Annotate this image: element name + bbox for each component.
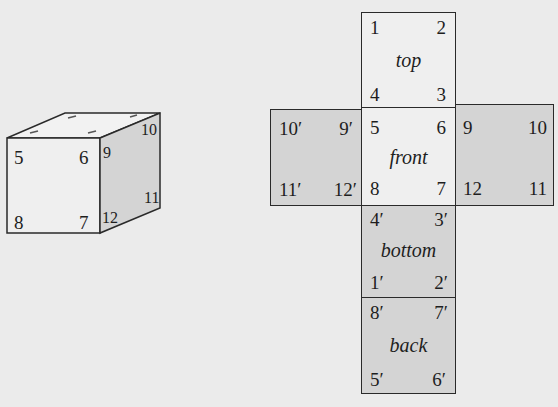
left-num-bl: 11′ xyxy=(279,180,301,199)
net-face-bottom: 4′ 3′ bottom 1′ 2′ xyxy=(361,205,456,298)
bottom-num-br: 2′ xyxy=(434,273,448,292)
back-num-br: 6′ xyxy=(432,370,446,389)
net-face-back: 8′ 7′ back 5′ 6′ xyxy=(361,297,456,394)
top-num-bl: 4 xyxy=(370,85,380,104)
net-face-right: 9 10 12 11 xyxy=(455,104,554,206)
cube-right-num-bl: 12 xyxy=(102,210,118,226)
left-num-br: 12′ xyxy=(334,180,357,199)
top-num-tl: 1 xyxy=(370,18,380,37)
front-num-tr: 6 xyxy=(437,118,447,137)
right-num-tl: 9 xyxy=(463,118,473,137)
top-num-br: 3 xyxy=(437,85,447,104)
front-num-bl: 8 xyxy=(370,179,380,198)
front-num-tl: 5 xyxy=(370,118,380,137)
bottom-num-tr: 3′ xyxy=(434,210,448,229)
right-num-br: 11 xyxy=(529,179,547,198)
front-label: front xyxy=(362,147,455,167)
cube-front-num-tr: 6 xyxy=(79,148,89,167)
top-label: top xyxy=(362,50,455,70)
back-num-tr: 7′ xyxy=(434,303,448,322)
cube-front-num-bl: 8 xyxy=(14,213,24,232)
bottom-label: bottom xyxy=(362,240,455,260)
top-num-tr: 2 xyxy=(437,18,447,37)
right-num-tr: 10 xyxy=(528,118,547,137)
bottom-num-tl: 4′ xyxy=(370,210,384,229)
cube-right-num-tr: 10 xyxy=(141,122,157,138)
bottom-num-bl: 1′ xyxy=(370,273,384,292)
left-num-tl: 10′ xyxy=(279,119,302,138)
net-face-left: 10′ 9′ 11′ 12′ xyxy=(270,109,362,206)
front-num-br: 7 xyxy=(437,179,447,198)
cube-front-num-tl: 5 xyxy=(14,148,24,167)
cube-front-num-br: 7 xyxy=(79,213,89,232)
net-face-front: 5 6 front 8 7 xyxy=(361,107,456,206)
back-num-tl: 8′ xyxy=(370,303,384,322)
net-face-top: 1 2 top 4 3 xyxy=(361,12,456,108)
left-num-tr: 9′ xyxy=(339,119,353,138)
cube-right-num-tl: 9 xyxy=(103,145,111,161)
cube-right-num-br: 11 xyxy=(144,190,159,206)
back-label: back xyxy=(362,335,455,355)
back-num-bl: 5′ xyxy=(370,370,384,389)
right-num-bl: 12 xyxy=(463,179,482,198)
